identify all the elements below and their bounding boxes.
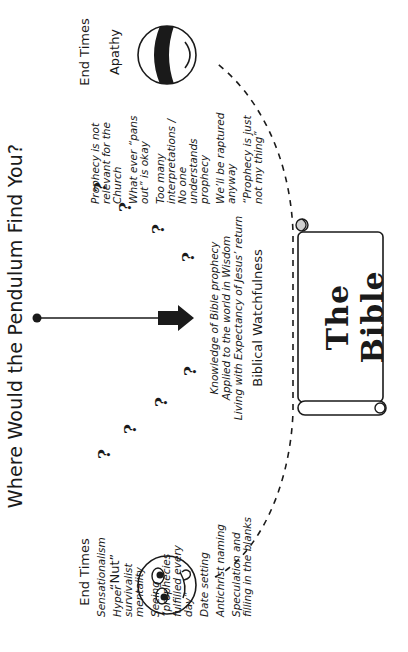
list-item: Antichrist naming bbox=[215, 507, 226, 617]
right-pole-label-line2: Apathy bbox=[100, 12, 130, 92]
list-item: Date setting bbox=[199, 507, 210, 617]
nut-traits-list: Sensationalism Hyper survivalist mentali… bbox=[96, 507, 258, 617]
question-mark-icon: ? bbox=[96, 449, 113, 459]
list-item: Hyper survivalist mentality bbox=[112, 532, 145, 617]
description-line: Knowledge of Bible prophecy bbox=[208, 198, 220, 438]
list-item: Sensationalism bbox=[96, 507, 107, 617]
list-item: “Prophecy is just not my thing” bbox=[242, 109, 264, 204]
list-item: Seeing “prophecies fulfilled every day” bbox=[150, 522, 194, 617]
pendulum-diagram: Where Would the Pendulum Find You? bbox=[0, 0, 408, 652]
description-line: Living with Expectancy of Jesus’ return bbox=[232, 198, 244, 438]
pendulum bbox=[33, 305, 195, 331]
blindfolded-face-icon bbox=[138, 26, 196, 84]
scroll-title: The Bible bbox=[320, 234, 390, 400]
down-arrow-icon bbox=[158, 305, 194, 331]
description-line: Applied to the world in Wisdom bbox=[220, 198, 232, 438]
watchfulness-description: Knowledge of Bible prophecy Applied to t… bbox=[208, 198, 244, 438]
question-mark-icon: ? bbox=[153, 397, 170, 407]
question-mark-icon: ? bbox=[182, 366, 199, 376]
list-item: What ever “pans out” is okay bbox=[128, 109, 150, 204]
watchfulness-heading: Biblical Watchfulness bbox=[250, 198, 265, 438]
right-pole-label: End Times Apathy bbox=[70, 12, 130, 92]
list-item: Too many interpretations / No one unders… bbox=[155, 109, 210, 204]
question-mark-icon: ? bbox=[122, 424, 139, 434]
question-mark-icon: ? bbox=[180, 252, 197, 262]
right-pole-label-line1: End Times bbox=[70, 12, 100, 92]
list-item: We’ll be raptured anyway bbox=[215, 109, 237, 204]
question-mark-icon: ? bbox=[150, 224, 167, 234]
list-item: Prophecy is not relevant for the Church bbox=[90, 109, 123, 204]
apathy-traits-list: Prophecy is not relevant for the Church … bbox=[90, 109, 269, 204]
list-item: Speculation and filling in the blanks bbox=[231, 507, 253, 617]
